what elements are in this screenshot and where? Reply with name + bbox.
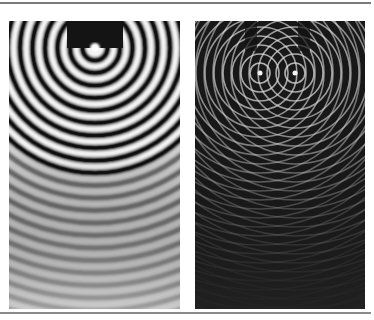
bottom-rule: [0, 312, 371, 314]
two-source-interference-photo: [195, 21, 365, 309]
top-rule: [0, 2, 371, 4]
single-source-wave-photo: [9, 21, 180, 309]
